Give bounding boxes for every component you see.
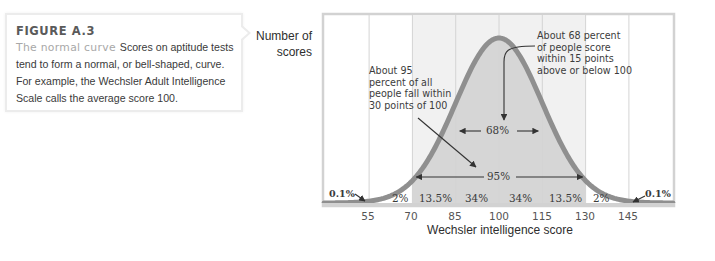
band-115-130: 13.5%: [549, 192, 582, 204]
label-95-percent: 95%: [487, 170, 510, 182]
band-85-100: 34%: [465, 192, 488, 204]
annotation-line: About 95: [369, 65, 451, 77]
band-130-145: 2%: [593, 192, 609, 204]
annotation-line: above or below 100: [537, 65, 632, 77]
annotation-line: people fall within: [369, 88, 451, 100]
tail-left-percent: 0.1%: [329, 188, 355, 199]
band-70-85: 13.5%: [419, 192, 452, 204]
x-tick-115: 115: [527, 210, 557, 222]
annotation-95-percent: About 95percent of allpeople fall within…: [369, 65, 451, 111]
annotation-line: percent of all: [369, 77, 451, 89]
x-tick-130: 130: [570, 210, 600, 222]
annotation-line: of people score: [537, 42, 632, 54]
x-tick-145: 145: [613, 210, 643, 222]
annotation-68-percent: About 68 percentof people scorewithin 15…: [537, 30, 632, 76]
annotation-line: within 15 points: [537, 53, 632, 65]
x-tick-85: 85: [440, 210, 470, 222]
band-55-70: 2%: [392, 192, 408, 204]
x-axis-label: Wechsler intelligence score: [400, 223, 600, 237]
x-tick-55: 55: [353, 210, 383, 222]
band-100-115: 34%: [509, 192, 532, 204]
label-68-percent: 68%: [486, 124, 509, 136]
x-tick-70: 70: [396, 210, 426, 222]
annotation-line: 30 points of 100: [369, 100, 451, 112]
annotation-line: About 68 percent: [537, 30, 632, 42]
tail-right-percent: 0.1%: [645, 188, 671, 199]
x-tick-100: 100: [484, 210, 514, 222]
